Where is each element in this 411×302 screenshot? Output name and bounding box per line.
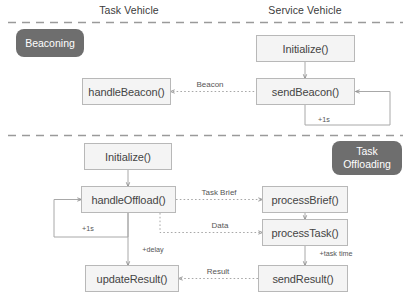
node-send-beacon-label: sendBeacon() [272,86,339,98]
edge-label-task-brief: Task Brief [186,188,252,197]
edge-label-delay: +delay [131,245,175,254]
sequence-diagram: Task Vehicle Service Vehicle Beaconing T… [0,0,411,302]
node-send-result[interactable]: sendResult() [258,265,348,292]
node-handle-offload-label: handleOffload() [91,194,165,206]
section-badge-task-offloading-line-2: Offloading [343,158,391,171]
node-send-result-label: sendResult() [272,273,333,285]
node-process-brief-label: processBrief() [271,194,338,206]
node-update-result[interactable]: updateResult() [85,265,179,292]
column-header-task-vehicle: Task Vehicle [79,4,179,16]
node-update-result-label: updateResult() [97,273,168,285]
edge-label-beacon: Beacon [182,80,238,89]
section-badge-task-offloading-line-1: Task [356,145,378,158]
node-handle-offload[interactable]: handleOffload() [81,186,176,213]
edge-label-result: Result [192,267,244,276]
edge-label-data: Data [190,221,250,230]
edge-label-handleoffload-loop: +1s [72,224,104,233]
node-sv-initialize[interactable]: Initialize() [256,35,355,62]
node-sv-initialize-label: Initialize() [283,43,329,55]
section-badge-beaconing[interactable]: Beaconing [16,29,84,57]
edge-label-sendbeacon-loop: +1s [306,115,342,124]
node-tv-initialize-label: Initialize() [105,151,151,163]
section-badge-task-offloading[interactable]: Task Offloading [332,141,402,175]
node-handle-beacon-label: handleBeacon() [88,86,164,98]
node-process-task[interactable]: processTask() [262,219,348,246]
node-tv-initialize[interactable]: Initialize() [84,143,172,170]
section-badge-beaconing-line-1: Beaconing [25,37,75,50]
node-handle-beacon[interactable]: handleBeacon() [82,78,171,105]
node-send-beacon[interactable]: sendBeacon() [256,78,355,105]
column-header-service-vehicle: Service Vehicle [250,4,360,16]
node-process-brief[interactable]: processBrief() [262,186,348,213]
edge-label-task-time: +task time [308,249,364,258]
node-process-task-label: processTask() [271,227,338,239]
